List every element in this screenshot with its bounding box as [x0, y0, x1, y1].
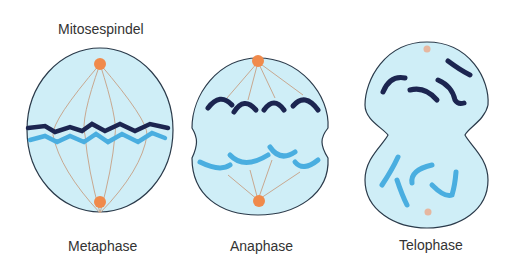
phase-label-anaphase: Anaphase [230, 238, 293, 254]
mitosis-diagram [0, 0, 511, 272]
metaphase-cell [27, 48, 173, 213]
anaphase-cell [192, 55, 328, 215]
telophase-cell [365, 42, 488, 228]
centrosome-top [94, 58, 106, 70]
centrosome-bottom [94, 196, 106, 208]
phase-label-metaphase: Metaphase [68, 238, 137, 254]
phase-label-telophase: Telophase [399, 237, 463, 253]
